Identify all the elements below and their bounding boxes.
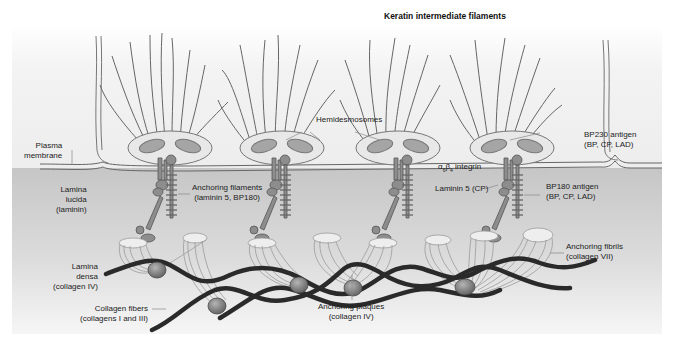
- keratinocyte-cytoplasm: [12, 25, 662, 170]
- label-bp180-antigen: BP180 antigen (BP, CP, LAD): [546, 182, 599, 202]
- label-lamina-lucida: Lamina lucida (laminin): [56, 185, 87, 215]
- label-integrin: α6β4 integrin: [438, 162, 481, 175]
- label-lamina-densa: Lamina densa (collagen IV): [53, 262, 98, 292]
- diagram-title: Keratin intermediate filaments: [384, 11, 506, 21]
- label-anchoring-filaments: Anchoring filaments (laminin 5, BP180): [192, 183, 262, 203]
- label-collagen-fibers: Collagen fibers (collagens I and III): [80, 304, 148, 324]
- diagram-canvas: Keratin intermediate filaments Plasma me…: [0, 0, 685, 349]
- label-anchoring-fibrils: Anchoring fibrils (collagen VII): [566, 242, 623, 262]
- label-plasma-membrane: Plasma membrane: [24, 141, 62, 161]
- basement-membrane-diagram: [0, 0, 685, 349]
- label-laminin-5: Laminin 5 (CP): [435, 184, 488, 194]
- label-anchoring-plaques: Anchoring plaques (collagen IV): [318, 302, 384, 322]
- label-bp230-antigen: BP230 antigen (BP, CP, LAD): [584, 130, 637, 150]
- label-hemidesmosomes: Hemidesmosomes: [316, 115, 382, 125]
